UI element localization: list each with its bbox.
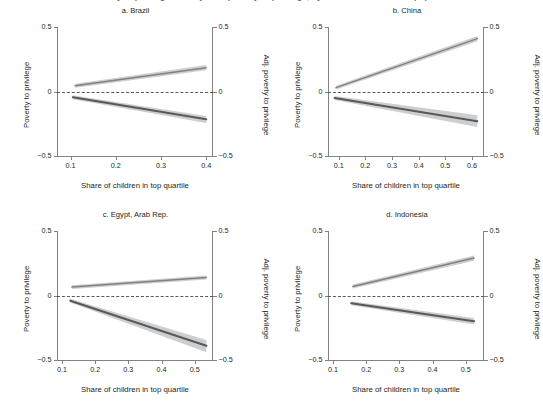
y-tick-right <box>213 27 217 28</box>
y-tick-label-left: 0 <box>48 292 52 299</box>
y-axis-label-left: Poverty to privilege <box>23 62 31 128</box>
x-tick <box>445 157 446 161</box>
panel-title: a. Brazil <box>0 6 271 15</box>
x-tick-label: 0.2 <box>361 366 371 373</box>
y-tick-label-left: 0 <box>48 88 52 95</box>
y-tick-label-left: −0.5 <box>37 356 51 363</box>
trend-line <box>351 303 474 321</box>
y-tick-label-right: −0.5 <box>219 152 233 159</box>
x-tick-label: 0.3 <box>123 366 133 373</box>
x-axis-label: Share of children in top quartile <box>25 182 245 190</box>
y-tick-right <box>484 296 488 297</box>
y-tick-right <box>213 231 217 232</box>
x-tick-label: 0.2 <box>111 162 121 169</box>
series-layer <box>57 27 213 156</box>
y-tick-right <box>213 156 217 157</box>
y-axis-label-left: Poverty to privilege <box>294 266 302 332</box>
x-tick-label: 0.4 <box>201 162 211 169</box>
x-tick <box>333 361 334 365</box>
x-tick <box>466 361 467 365</box>
y-tick-right <box>484 156 488 157</box>
trend-line <box>73 97 206 119</box>
y-tick-label-left: 0 <box>319 292 323 299</box>
y-tick-label-left: −0.5 <box>308 356 322 363</box>
plot-area: −0.5−0.5000.50.50.10.20.30.40.5 <box>57 231 213 360</box>
chart-panel: c. Egypt, Arab Rep.Poverty to privilegeA… <box>0 204 271 409</box>
y-tick-label-left: 0.5 <box>313 227 323 234</box>
y-tick-label-right: 0 <box>219 292 223 299</box>
x-tick-label: 0.5 <box>190 366 200 373</box>
x-tick-label: 0.5 <box>440 162 450 169</box>
x-tick <box>62 361 63 365</box>
x-tick <box>195 361 196 365</box>
x-axis-label: Share of children in top quartile <box>25 386 245 394</box>
x-tick-label: 0.4 <box>428 366 438 373</box>
x-tick <box>419 157 420 161</box>
x-tick <box>433 361 434 365</box>
y-tick-label-right: −0.5 <box>490 356 504 363</box>
x-tick-label: 0.4 <box>157 366 167 373</box>
trend-line <box>72 277 206 287</box>
y-tick-right <box>484 360 488 361</box>
x-tick <box>472 157 473 161</box>
y-tick-left <box>325 156 329 157</box>
x-axis-label: Share of children in top quartile <box>296 182 516 190</box>
trend-line <box>70 301 206 346</box>
x-tick-label: 0.3 <box>156 162 166 169</box>
x-tick <box>128 361 129 365</box>
y-tick-right <box>213 296 217 297</box>
y-tick-right <box>484 27 488 28</box>
panel-title: c. Egypt, Arab Rep. <box>0 210 271 219</box>
y-axis-label-right: Adj. poverty to privilege <box>263 54 271 135</box>
y-tick-label-right: 0.5 <box>219 23 229 30</box>
y-axis-label-right: Adj. poverty to privilege <box>534 258 542 339</box>
x-tick <box>365 157 366 161</box>
panel-title: d. Indonesia <box>271 210 543 219</box>
trend-line <box>75 68 206 86</box>
y-tick-label-right: 0.5 <box>490 227 500 234</box>
trend-line <box>336 39 477 88</box>
x-tick <box>366 361 367 365</box>
x-tick-label: 0.1 <box>328 366 338 373</box>
y-tick-label-right: 0.5 <box>219 227 229 234</box>
y-tick-label-right: 0 <box>219 88 223 95</box>
y-tick-right <box>213 360 217 361</box>
x-tick-label: 0.1 <box>334 162 344 169</box>
y-tick-label-left: 0.5 <box>313 23 323 30</box>
y-tick-label-right: 0.5 <box>490 23 500 30</box>
trend-line <box>335 98 478 121</box>
x-tick-label: 0.1 <box>57 366 67 373</box>
y-axis-label-left: Poverty to privilege <box>294 62 302 128</box>
plot-area: −0.5−0.5000.50.50.10.20.30.4 <box>57 27 213 156</box>
chart-panel: b. ChinaPoverty to privilegeAdj. poverty… <box>271 0 543 204</box>
x-tick-label: 0.6 <box>467 162 477 169</box>
panel-grid: a. BrazilPoverty to privilegeAdj. povert… <box>0 0 543 409</box>
x-axis-label: Share of children in top quartile <box>296 386 516 394</box>
chart-panel: a. BrazilPoverty to privilegeAdj. povert… <box>0 0 271 204</box>
x-tick <box>392 157 393 161</box>
series-layer <box>328 231 484 360</box>
series-layer <box>328 27 484 156</box>
trend-line <box>353 258 474 286</box>
x-tick <box>71 157 72 161</box>
y-tick-label-right: −0.5 <box>219 356 233 363</box>
y-axis-label-left: Poverty to privilege <box>23 266 31 332</box>
x-tick <box>206 157 207 161</box>
y-tick-left <box>325 360 329 361</box>
x-tick-label: 0.4 <box>414 162 424 169</box>
figure-poverty-to-privilege: Poverty to privilege and adjusted povert… <box>0 0 543 409</box>
x-tick-label: 0.3 <box>394 366 404 373</box>
x-tick <box>339 157 340 161</box>
y-tick-label-left: 0.5 <box>42 227 52 234</box>
x-tick-label: 0.3 <box>387 162 397 169</box>
y-tick-label-left: 0.5 <box>42 23 52 30</box>
panel-title: b. China <box>271 6 543 15</box>
y-tick-right <box>213 92 217 93</box>
y-tick-right <box>484 92 488 93</box>
y-tick-label-right: 0 <box>490 88 494 95</box>
plot-area: −0.5−0.5000.50.50.10.20.30.40.50.6 <box>328 27 484 156</box>
series-layer <box>57 231 213 360</box>
y-tick-label-right: −0.5 <box>490 152 504 159</box>
x-tick-label: 0.5 <box>461 366 471 373</box>
x-tick-label: 0.2 <box>90 366 100 373</box>
